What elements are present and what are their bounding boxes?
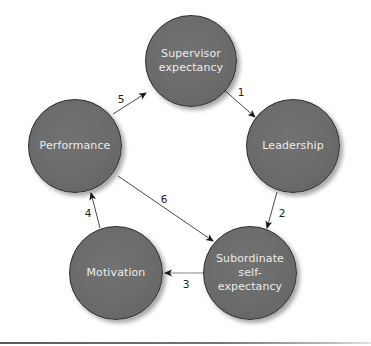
- edge-label-4: 4: [85, 207, 92, 219]
- node-performance: Performance: [28, 99, 122, 193]
- node-label: Leadership: [258, 139, 327, 153]
- node-label: Subordinate self- expectancy: [204, 252, 296, 294]
- node-label: Motivation: [83, 266, 150, 280]
- edge-label-2: 2: [279, 207, 286, 219]
- node-motivation: Motivation: [69, 226, 163, 320]
- node-leadership: Leadership: [246, 99, 340, 193]
- node-supervisor-expectancy: Supervisor expectancy: [145, 15, 237, 107]
- edge-label-5: 5: [118, 93, 125, 105]
- node-subordinate-self-expectancy: Subordinate self- expectancy: [203, 226, 297, 320]
- edge-label-6: 6: [161, 193, 168, 205]
- label-line: Subordinate self-: [216, 252, 284, 279]
- node-label: Supervisor expectancy: [155, 47, 227, 75]
- label-line: Supervisor: [161, 47, 221, 60]
- edge-label-3: 3: [183, 278, 190, 290]
- edge-2-arrow: [267, 192, 277, 228]
- horizontal-divider: [0, 342, 371, 344]
- edge-label-1: 1: [238, 86, 245, 98]
- label-line: expectancy: [218, 280, 282, 293]
- label-line: expectancy: [159, 61, 223, 74]
- pygmalion-cycle-diagram: Supervisor expectancy Leadership Subordi…: [0, 0, 371, 346]
- node-label: Performance: [36, 139, 115, 153]
- edge-4-arrow: [91, 193, 100, 228]
